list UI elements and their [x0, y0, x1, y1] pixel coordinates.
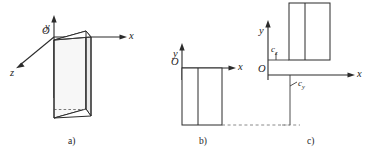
panel-b-caption: b) [199, 137, 207, 147]
panel-c-drawing [265, 3, 355, 125]
panel-b-origin-label: O [171, 57, 179, 68]
panel-c-cy-subscript: y [302, 83, 305, 90]
panel-c-origin-label: O [258, 64, 266, 75]
panel-a-drawing [16, 15, 127, 118]
panel-c-cz-subscript: z [275, 49, 278, 56]
panel-c-x-axis-label: x [357, 69, 362, 80]
panel-c-cy-label: cy [298, 79, 305, 90]
panel-a-y-axis-arrowhead [51, 15, 56, 23]
panel-b-x-axis-arrowhead [229, 65, 237, 70]
panel-b-y-axis-arrowhead [179, 43, 184, 51]
panel-c-cz-label: cz [271, 45, 278, 56]
panel-c-cy-leader [290, 82, 297, 86]
panel-c-caption: c) [307, 137, 314, 147]
panel-a-prism-right-face [86, 31, 91, 116]
panel-a-z-axis-label: z [10, 68, 14, 79]
panel-c-y-axis-arrowhead [265, 20, 270, 28]
figure-drawing [0, 0, 367, 158]
panel-a-x-axis-arrowhead [120, 34, 128, 39]
panel-c-rectangle [289, 3, 330, 60]
panel-b-rectangle [182, 68, 222, 125]
panel-a-x-axis-label: x [129, 31, 134, 42]
figure-container: y x z O y x O y x O cz cy a) b) c) [0, 0, 367, 158]
panel-c-y-axis-label: y [259, 26, 264, 37]
panel-c-x-axis-arrowhead [348, 72, 356, 77]
panel-b-x-axis-label: x [238, 62, 243, 73]
panel-a-prism-left-face [54, 31, 86, 118]
panel-a-caption: a) [68, 137, 75, 147]
panel-a-z-axis [20, 37, 54, 65]
panel-a-origin-label: O [42, 26, 50, 37]
panel-a-z-axis-arrowhead [16, 63, 25, 69]
